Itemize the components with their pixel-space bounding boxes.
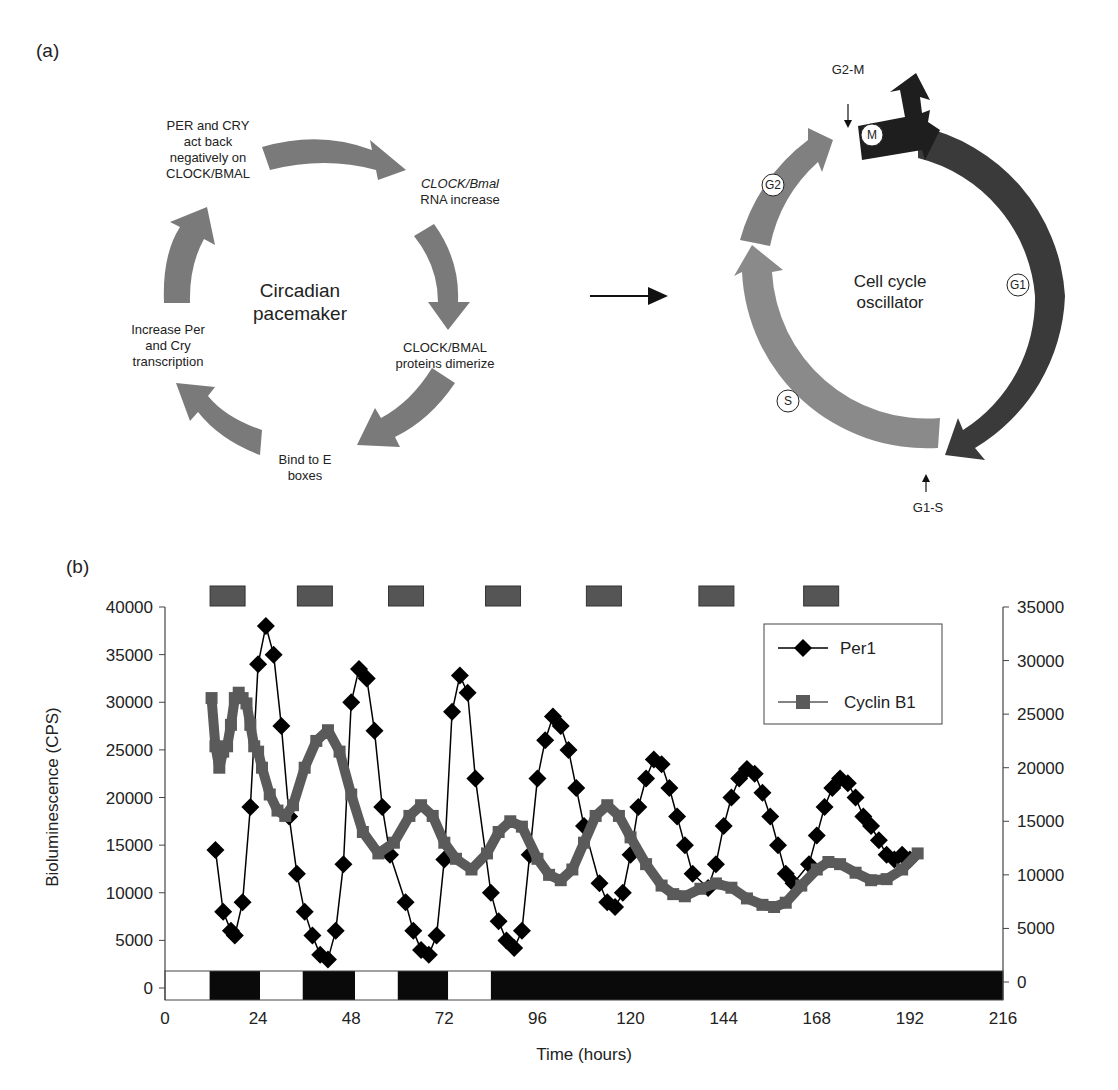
right-tick-label: 15000 <box>1017 812 1064 831</box>
lighting-segment-light <box>165 971 210 1000</box>
x-tick-label: 216 <box>989 1009 1017 1028</box>
cyclin-marker <box>287 799 299 811</box>
x-tick-label: 168 <box>803 1009 831 1028</box>
per1-marker <box>668 808 686 826</box>
per1-marker <box>373 798 391 816</box>
cyclin-marker <box>679 890 691 902</box>
phase-label-s: S <box>784 394 792 408</box>
per1-marker <box>660 779 678 797</box>
per1-marker <box>397 893 415 911</box>
cyclin-marker <box>345 789 357 801</box>
lighting-segment-light <box>448 971 491 1000</box>
x-tick-label: 144 <box>709 1009 737 1028</box>
per1-marker <box>513 922 531 940</box>
per1-marker <box>847 789 865 807</box>
cyclin-marker <box>881 873 893 885</box>
top-dark-marker <box>210 586 245 606</box>
cyclin-marker <box>531 853 543 865</box>
cyclin-marker <box>613 810 625 822</box>
cyclin-marker <box>244 719 256 731</box>
cyclin-marker <box>656 880 668 892</box>
cyclin-marker <box>756 899 768 911</box>
per1-marker <box>214 903 232 921</box>
cyclin-marker <box>438 837 450 849</box>
top-dark-marker <box>586 586 621 606</box>
per1-marker <box>288 865 306 883</box>
cyclin-marker <box>725 882 737 894</box>
cyclin-marker <box>256 762 268 774</box>
cyclin-marker <box>640 858 652 870</box>
cyclin-marker <box>504 815 516 827</box>
checkpoint-g2m: G2-M <box>832 62 865 77</box>
lighting-segment-dark <box>210 971 260 1000</box>
per1-marker <box>870 831 888 849</box>
left-tick-label: 30000 <box>106 693 153 712</box>
per1-marker <box>722 789 740 807</box>
left-tick-label: 40000 <box>106 598 153 617</box>
arrow-to-clock-rna <box>262 139 406 180</box>
right-tick-label: 10000 <box>1017 866 1064 885</box>
per1-marker <box>303 927 321 945</box>
per1-marker <box>296 903 314 921</box>
top-dark-marker <box>486 586 521 606</box>
left-tick-label: 20000 <box>106 789 153 808</box>
cyclin-marker <box>834 858 846 870</box>
cyclin-marker <box>372 847 384 859</box>
checkpoint-g1s: G1-S <box>913 500 944 515</box>
cyclin-marker <box>590 810 602 822</box>
arrow-to-transcription <box>176 383 262 455</box>
per1-marker <box>715 817 733 835</box>
cyclin-marker <box>865 874 877 886</box>
cyclin-marker <box>388 837 400 849</box>
phase-label-g1: G1 <box>1010 278 1026 292</box>
cyclin-marker <box>822 856 834 868</box>
right-tick-label: 30000 <box>1017 652 1064 671</box>
per1-marker <box>459 684 477 702</box>
cyclin-marker <box>357 826 369 838</box>
top-dark-marker <box>389 586 424 606</box>
step-feedback-label: PER and CRY act back negatively on CLOCK… <box>148 118 268 182</box>
top-dark-marker <box>804 586 839 606</box>
per1-marker <box>241 798 259 816</box>
lighting-segment-dark <box>398 971 448 1000</box>
left-tick-label: 0 <box>144 979 153 998</box>
left-tick-label: 25000 <box>106 741 153 760</box>
phase-label-g2: G2 <box>765 178 781 192</box>
left-tick-label: 35000 <box>106 646 153 665</box>
per1-marker <box>265 646 283 664</box>
x-tick-label: 192 <box>896 1009 924 1028</box>
cyclin-marker <box>225 719 237 731</box>
arrow-to-feedback <box>164 207 215 303</box>
per1-marker <box>591 874 609 892</box>
right-tick-label: 5000 <box>1017 919 1055 938</box>
per1-marker <box>334 855 352 873</box>
cyclin-marker <box>481 847 493 859</box>
cyclin-marker <box>566 864 578 876</box>
per1-marker <box>234 893 252 911</box>
cyclin-marker <box>310 735 322 747</box>
legend-cyclin-b1: Cyclin B1 <box>844 693 916 712</box>
cyclin-marker <box>427 810 439 822</box>
cyclin-marker <box>811 864 823 876</box>
per1-marker <box>528 769 546 787</box>
right-tick-label: 0 <box>1017 973 1026 992</box>
per1-marker <box>327 922 345 940</box>
x-tick-label: 0 <box>160 1009 169 1028</box>
cyclin-marker <box>694 883 706 895</box>
per1-marker <box>808 827 826 845</box>
per1-marker <box>249 655 267 673</box>
cyclin-marker <box>264 789 276 801</box>
cyclin-marker <box>710 877 722 889</box>
per1-marker <box>466 769 484 787</box>
cyclin-marker <box>516 821 528 833</box>
per1-marker <box>559 741 577 759</box>
lighting-segment-dark <box>303 971 355 1000</box>
per1-marker <box>272 717 290 735</box>
cyclin-marker <box>780 897 792 909</box>
cyclin-marker <box>555 874 567 886</box>
cyclin-marker <box>403 810 415 822</box>
lighting-segment-light <box>355 971 398 1000</box>
cell-cycle-center-label: Cell cycle oscillator <box>820 271 960 313</box>
lighting-segment-dark <box>491 971 1003 1000</box>
cyclin-marker <box>279 810 291 822</box>
